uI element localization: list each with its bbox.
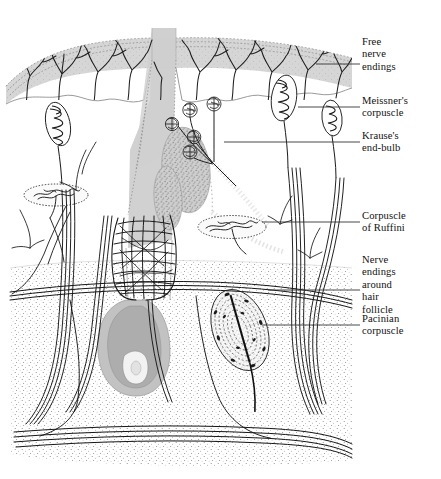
skin-receptors-figure: Free nerve endingsMeissner's corpuscleKr… xyxy=(0,0,441,479)
label-free-nerve-endings: Free nerve endings xyxy=(362,36,396,73)
krause-bulb xyxy=(207,97,221,111)
meissner-corpuscle xyxy=(320,99,344,137)
krause-bulb xyxy=(183,103,197,117)
label-pacinian-corpuscle: Pacinian corpuscle xyxy=(362,313,404,338)
label-corpuscle-of-ruffini: Corpuscle of Ruffini xyxy=(362,210,406,235)
ruffini-corpuscle xyxy=(24,184,88,218)
krause-bulb xyxy=(183,145,197,159)
meissner-corpuscle xyxy=(42,100,75,148)
label-nerve-endings-hair: Nerve endings around hair follicle xyxy=(362,254,396,316)
label-krauses-end-bulb: Krause's end-bulb xyxy=(362,130,400,155)
meissner-corpuscle xyxy=(268,73,299,122)
ruffini-corpuscle xyxy=(198,216,266,255)
label-meissners-corpuscle: Meissner's corpuscle xyxy=(362,95,408,120)
epidermis-layer xyxy=(6,38,352,104)
krause-bulb xyxy=(165,117,178,131)
